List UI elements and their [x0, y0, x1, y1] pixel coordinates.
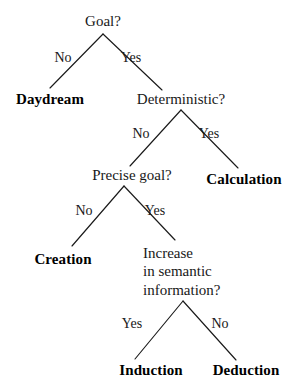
node-increase-line-3: information?	[143, 281, 273, 299]
node-induction: Induction	[119, 363, 182, 378]
node-precise-goal: Precise goal?	[92, 168, 172, 183]
edge-lines-group	[0, 0, 296, 388]
node-daydream: Daydream	[16, 92, 84, 107]
node-goal: Goal?	[85, 14, 121, 29]
node-calculation: Calculation	[206, 172, 281, 187]
node-deduction: Deduction	[213, 363, 280, 378]
edge-label-goal-yes: Yes	[121, 51, 141, 65]
node-increase-line-1: Increase	[143, 244, 273, 262]
edge-label-deterministic-no: No	[132, 127, 149, 141]
node-increase-line-2: in semantic	[143, 262, 273, 280]
edge-label-increase-no: No	[211, 317, 228, 331]
node-increase-semantic-information: Increase in semantic information?	[143, 244, 273, 299]
edge-label-deterministic-yes: Yes	[199, 127, 219, 141]
edge-label-precise-goal-yes: Yes	[145, 204, 165, 218]
edge-label-precise-goal-no: No	[75, 204, 92, 218]
edge-label-increase-yes: Yes	[122, 317, 142, 331]
decision-tree-diagram: Goal? Daydream Deterministic? Calculatio…	[0, 0, 296, 388]
node-deterministic: Deterministic?	[137, 92, 225, 107]
node-creation: Creation	[34, 252, 91, 267]
edge-label-goal-no: No	[54, 51, 71, 65]
edge-line-increase-left	[135, 301, 183, 359]
